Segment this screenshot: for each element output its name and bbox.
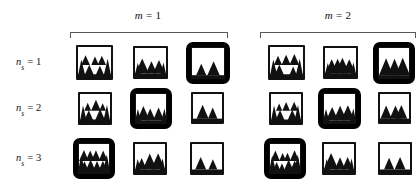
thumbnail-scene-forest-sparse <box>135 48 166 77</box>
thumbnail-scene-forest-sparse <box>325 48 356 77</box>
row-label-ns3: ns=3 <box>16 152 41 166</box>
thumbnail-m1-ns3-col3[interactable] <box>190 142 224 175</box>
thumbnail-scene-forest-sparse <box>324 144 354 173</box>
thumbnail-scene-forest-minimal <box>192 144 222 173</box>
row-label-ns1-value: 1 <box>36 56 41 67</box>
row-label-ns1-equals: = <box>27 56 33 67</box>
thumbnail-m1-ns3-col2[interactable] <box>133 142 167 175</box>
thumbnail-m1-ns1-col2[interactable] <box>133 46 168 79</box>
thumbnail-m2-ns3-col1[interactable] <box>264 138 306 179</box>
thumbnail-scene-forest-minimal <box>380 144 410 173</box>
thumbnail-scene-forest-very-dense <box>269 143 301 174</box>
row-label-ns1-subscript: s <box>21 63 24 72</box>
row-label-ns3-equals: = <box>27 152 33 163</box>
thumbnail-scene-forest-minimal <box>378 47 410 79</box>
row-label-ns2-equals: = <box>27 102 33 113</box>
row-label-ns2: ns=2 <box>16 102 41 116</box>
thumbnail-scene-forest-sparse <box>135 144 165 173</box>
thumbnail-scene-forest-minimal <box>380 94 409 122</box>
row-label-ns2-value: 2 <box>36 102 41 113</box>
thumbnail-scene-forest-dense <box>78 47 111 78</box>
thumbnail-m2-ns2-col2[interactable] <box>318 88 361 129</box>
group-header-m1: m=1 <box>108 9 188 21</box>
thumbnail-m1-ns2-col3[interactable] <box>191 92 224 124</box>
thumbnail-m1-ns3-col1[interactable] <box>73 138 115 179</box>
row-label-ns3-value: 3 <box>36 152 41 163</box>
thumbnail-m2-ns1-col2[interactable] <box>323 46 358 79</box>
group-bracket-m2 <box>260 32 416 38</box>
thumbnail-m1-ns1-col3[interactable] <box>186 42 230 84</box>
thumbnail-m1-ns1-col1[interactable] <box>76 45 113 80</box>
row-label-ns3-subscript: s <box>21 159 24 168</box>
group-header-m1-equals: = <box>146 9 153 21</box>
thumbnail-scene-forest-dense <box>271 94 301 123</box>
thumbnail-scene-forest-dense <box>80 94 110 123</box>
thumbnail-m2-ns3-col3[interactable] <box>378 142 412 175</box>
thumbnail-m2-ns1-col3[interactable] <box>373 42 415 84</box>
thumbnail-scene-forest-minimal <box>193 94 222 122</box>
thumbnail-m2-ns2-col1[interactable] <box>269 92 303 125</box>
group-header-m1-symbol: m <box>135 9 143 21</box>
group-bracket-m1 <box>70 32 228 38</box>
thumbnail-m1-ns2-col2[interactable] <box>130 88 172 129</box>
group-header-m1-value: 1 <box>155 9 161 21</box>
thumbnail-m2-ns2-col3[interactable] <box>378 92 411 124</box>
row-label-ns2-subscript: s <box>21 109 24 118</box>
figure-root: m=1 m=2 ns=1 ns=2 ns=3 <box>0 0 418 188</box>
thumbnail-scene-forest-dense <box>270 47 303 78</box>
thumbnail-scene-forest-minimal <box>191 47 225 79</box>
thumbnail-scene-forest-very-dense <box>78 143 110 174</box>
row-label-ns1: ns=1 <box>16 56 41 70</box>
thumbnail-m2-ns1-col1[interactable] <box>268 45 305 80</box>
thumbnail-m2-ns3-col2[interactable] <box>322 142 356 175</box>
group-header-m2-value: 2 <box>345 9 351 21</box>
thumbnail-m1-ns2-col1[interactable] <box>78 92 112 125</box>
group-header-m2-equals: = <box>336 9 343 21</box>
thumbnail-scene-forest-sparse <box>323 93 356 124</box>
thumbnail-scene-forest-sparse <box>135 93 167 124</box>
group-header-m2-symbol: m <box>325 9 333 21</box>
group-header-m2: m=2 <box>298 9 378 21</box>
